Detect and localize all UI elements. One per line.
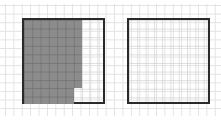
shaded-region-top <box>24 20 82 88</box>
left-hundred-grid <box>22 18 105 104</box>
right-hundred-grid <box>127 18 210 104</box>
shaded-region-bottom <box>24 88 74 104</box>
